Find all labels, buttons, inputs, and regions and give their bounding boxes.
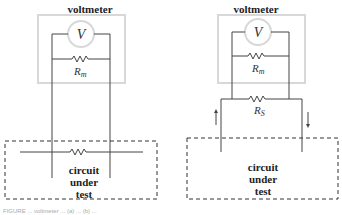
right-panel: voltmeter V Rm RS circuit under test [187,3,338,199]
right-circuit-label-2: under [249,173,277,185]
right-rs-leads [221,99,302,152]
circuit-diagram: voltmeter V Rm circuit under test voltme… [0,0,342,215]
left-circuit-label-1: circuit [69,164,100,176]
left-circuit-label-2: under [70,176,98,188]
left-rm-resistor-icon [52,56,110,62]
left-rm-label: Rm [73,65,87,79]
right-rm-resistor-icon [232,53,289,59]
right-rs-resistor-icon [221,96,302,102]
right-voltmeter-symbol: V [254,25,264,40]
left-circuit-label-3: test [76,188,93,200]
right-rm-label: Rm [251,62,265,76]
left-voltmeter-title: voltmeter [67,3,112,15]
up-arrow-icon [214,109,218,125]
right-circuit-label-1: circuit [248,161,279,173]
right-rs-label: RS [253,104,265,118]
left-circuit-resistor-icon [20,149,143,155]
right-circuit-label-3: test [255,185,272,197]
left-voltmeter-symbol: V [77,27,87,42]
down-arrow-icon [306,112,310,128]
right-voltmeter-title: voltmeter [233,3,278,15]
left-panel: voltmeter V Rm circuit under test [5,3,157,200]
left-meter-leads [52,34,110,178]
figure-caption: FIGURE ... voltmeter ... (a) ... (b) ... [3,208,97,214]
